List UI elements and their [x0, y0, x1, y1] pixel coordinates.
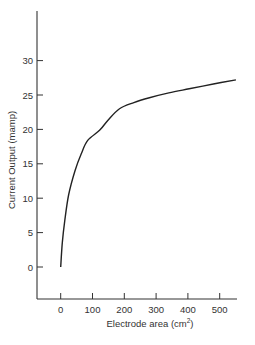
- y-axis-label: Current Output (mamp): [6, 111, 17, 209]
- x-tick-label: 100: [85, 304, 101, 315]
- x-axis-label: Electrode area (cm2): [106, 317, 193, 329]
- y-tick-label: 25: [22, 90, 33, 101]
- x-axis-label-main: Electrode area (cm: [106, 318, 186, 329]
- x-axis-label-end: ): [190, 318, 193, 329]
- y-tick-label: 30: [22, 55, 33, 66]
- data-curve: [61, 80, 236, 267]
- x-tick-label: 200: [116, 304, 132, 315]
- axes: [37, 11, 237, 299]
- x-tick-label: 0: [58, 304, 63, 315]
- y-tick-label: 5: [28, 227, 33, 238]
- y-axis-ticks: 051015202530: [22, 55, 43, 272]
- x-tick-label: 300: [148, 304, 164, 315]
- chart: 051015202530 0100200300400500 Current Ou…: [0, 0, 255, 345]
- y-tick-label: 10: [22, 193, 33, 204]
- x-axis-ticks: 0100200300400500: [58, 293, 228, 315]
- y-tick-label: 15: [22, 158, 33, 169]
- x-tick-label: 400: [180, 304, 196, 315]
- y-tick-label: 0: [28, 262, 33, 273]
- y-tick-label: 20: [22, 124, 33, 135]
- x-tick-label: 500: [212, 304, 228, 315]
